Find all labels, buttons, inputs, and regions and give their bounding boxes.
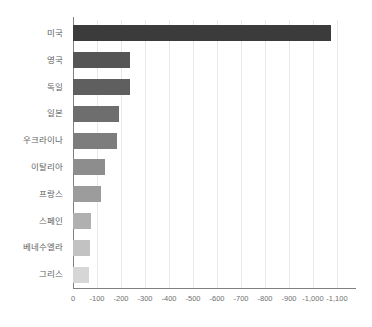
plot-area	[73, 20, 337, 288]
x-tick-label: -300	[137, 295, 152, 303]
bar[interactable]	[73, 79, 130, 95]
category-label: 그리스	[0, 270, 68, 279]
bar-row	[73, 240, 337, 256]
x-tick-label: 0	[71, 295, 75, 303]
bar[interactable]	[73, 106, 119, 122]
x-tick-label: -600	[209, 295, 224, 303]
x-tick-label: -400	[161, 295, 176, 303]
category-label: 일본	[0, 109, 68, 118]
bar-row	[73, 25, 337, 41]
x-axis-line	[73, 288, 356, 289]
bar-series	[73, 20, 337, 288]
category-axis-labels: 미국영국독일일본우크라이나이탈리아프랑스스페인베네수엘라그리스	[0, 20, 68, 288]
category-label: 프랑스	[0, 190, 68, 199]
bar[interactable]	[73, 240, 90, 256]
x-tick-label: -200	[113, 295, 128, 303]
bar-row	[73, 106, 337, 122]
x-tick-label: -900	[281, 295, 296, 303]
bar[interactable]	[73, 159, 105, 175]
x-tick-label: -700	[233, 295, 248, 303]
bar-row	[73, 159, 337, 175]
bar[interactable]	[73, 186, 101, 202]
bar[interactable]	[73, 25, 331, 41]
bar-row	[73, 213, 337, 229]
bar[interactable]	[73, 267, 89, 283]
category-label: 베네수엘라	[0, 243, 68, 252]
category-label: 영국	[0, 56, 68, 65]
bar-row	[73, 267, 337, 283]
bar-row	[73, 186, 337, 202]
x-tick-label: -1,000	[302, 295, 323, 303]
category-label: 이탈리아	[0, 163, 68, 172]
bar[interactable]	[73, 52, 130, 68]
x-tick-label: -1,100	[326, 295, 347, 303]
bar-row	[73, 52, 337, 68]
gridline	[337, 20, 338, 288]
x-axis-tick-labels: 0-100-200-300-400-500-600-700-800-900-1,…	[0, 295, 372, 309]
bar-row	[73, 79, 337, 95]
x-tick-label: -500	[185, 295, 200, 303]
category-label: 독일	[0, 83, 68, 92]
x-tick-label: -100	[89, 295, 104, 303]
bar-row	[73, 133, 337, 149]
category-label: 스페인	[0, 217, 68, 226]
x-tick-label: -800	[257, 295, 272, 303]
category-label: 우크라이나	[0, 136, 68, 145]
bar-chart: 미국영국독일일본우크라이나이탈리아프랑스스페인베네수엘라그리스 0-100-20…	[0, 0, 372, 327]
bar[interactable]	[73, 133, 117, 149]
category-label: 미국	[0, 29, 68, 38]
bar[interactable]	[73, 213, 91, 229]
